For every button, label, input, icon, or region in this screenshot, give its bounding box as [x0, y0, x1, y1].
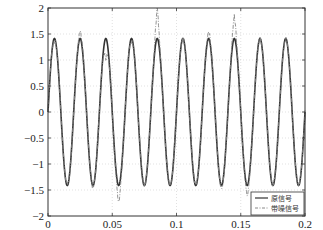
x-tick-label: 0	[45, 218, 51, 230]
y-tick-label: 1	[39, 54, 45, 66]
y-tick-label: −0.5	[24, 132, 44, 144]
y-tick-label: 0.5	[30, 80, 44, 92]
y-tick-label: −1	[32, 158, 44, 170]
y-tick-label: −2	[32, 210, 44, 222]
x-tick-label: 0.1	[170, 218, 184, 230]
series-lines	[48, 8, 305, 201]
legend-label-noisy: 带噪信号	[271, 204, 299, 213]
chart: 00.050.10.150.221.510.50−0.5−1−1.5−2 原信号…	[0, 0, 323, 230]
x-tick-label: 0.05	[103, 218, 123, 230]
y-tick-label: 0	[39, 106, 45, 118]
y-tick-label: −1.5	[24, 184, 44, 196]
legend: 原信号 带噪信号	[251, 192, 304, 215]
x-tick-label: 0.15	[231, 218, 251, 230]
legend-label-original: 原信号	[271, 194, 292, 203]
y-tick-label: 2	[39, 2, 45, 14]
x-tick-label: 0.2	[298, 218, 312, 230]
y-tick-label: 1.5	[30, 28, 44, 40]
